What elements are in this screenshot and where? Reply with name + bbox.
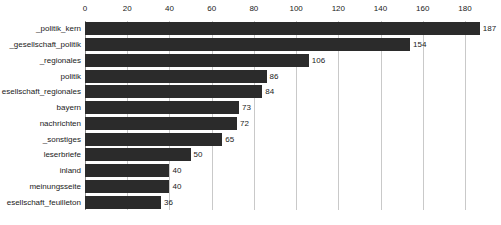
- category-label: _politik_kern: [36, 24, 83, 33]
- bar-row: 187: [85, 21, 501, 37]
- bar-value-label: 154: [413, 40, 426, 49]
- bar-value-label: 40: [172, 166, 181, 175]
- bar: [85, 22, 480, 35]
- x-tick-label: 0: [83, 4, 87, 13]
- x-tick-label: 80: [249, 4, 258, 13]
- bar-row: 154: [85, 37, 501, 53]
- category-label-row: nachrichten: [0, 116, 83, 132]
- bar: [85, 70, 267, 83]
- bar: [85, 101, 239, 114]
- category-label: nachrichten: [40, 119, 83, 128]
- bar-value-label: 65: [225, 135, 234, 144]
- bar-value-label: 86: [270, 72, 279, 81]
- category-label: meinungsseite: [29, 182, 83, 191]
- category-label: leserbriefe: [44, 150, 83, 159]
- category-label-row: _sonstiges: [0, 131, 83, 147]
- x-tick-label: 100: [289, 4, 302, 13]
- bar-value-label: 36: [164, 198, 173, 207]
- category-axis-labels: _politik_kern_gesellschaft_politik_regio…: [0, 21, 83, 210]
- x-tick-label: 180: [458, 4, 471, 13]
- bar-row: 36: [85, 194, 501, 210]
- bar: [85, 148, 191, 161]
- bar: [85, 85, 262, 98]
- category-label: inland: [60, 166, 83, 175]
- bar-value-label: 73: [242, 103, 251, 112]
- x-axis: 020406080100120140160180: [0, 0, 501, 22]
- x-tick-label: 160: [416, 4, 429, 13]
- plot-area: 187154106868473726550404036: [85, 21, 501, 210]
- category-label: _sonstiges: [43, 135, 83, 144]
- bar-row: 65: [85, 131, 501, 147]
- category-label-row: _gesellschaft_politik: [0, 37, 83, 53]
- bar-row: 40: [85, 179, 501, 195]
- bar-chart: 020406080100120140160180 _politik_kern_g…: [0, 0, 501, 225]
- bar-row: 50: [85, 147, 501, 163]
- category-label-row: leserbriefe: [0, 147, 83, 163]
- category-label: _gesellschaft_politik: [9, 40, 83, 49]
- x-tick-label: 40: [165, 4, 174, 13]
- bar-row: 86: [85, 68, 501, 84]
- category-label-row: meinungsseite: [0, 179, 83, 195]
- bars-container: 187154106868473726550404036: [85, 21, 501, 210]
- bar-value-label: 106: [312, 56, 325, 65]
- bar-row: 72: [85, 116, 501, 132]
- bar-value-label: 50: [194, 150, 203, 159]
- category-label-row: esellschaft_regionales: [0, 84, 83, 100]
- category-label: politik: [61, 72, 83, 81]
- bar-row: 40: [85, 163, 501, 179]
- category-label-row: inland: [0, 163, 83, 179]
- bar: [85, 133, 222, 146]
- category-label-row: _regionales: [0, 53, 83, 69]
- bar-row: 84: [85, 84, 501, 100]
- x-tick-label: 20: [123, 4, 132, 13]
- x-tick-label: 120: [332, 4, 345, 13]
- bar-value-label: 72: [240, 119, 249, 128]
- bar-row: 106: [85, 53, 501, 69]
- bar: [85, 164, 169, 177]
- bar-row: 73: [85, 100, 501, 116]
- x-tick-label: 60: [207, 4, 216, 13]
- category-label-row: _politik_kern: [0, 21, 83, 37]
- bar: [85, 117, 237, 130]
- category-label: esellschaft_regionales: [2, 87, 83, 96]
- category-label: esellschaft_feuilleton: [7, 198, 83, 207]
- category-label-row: politik: [0, 68, 83, 84]
- x-tick-label: 140: [374, 4, 387, 13]
- bar: [85, 180, 169, 193]
- category-label-row: bayern: [0, 100, 83, 116]
- bar-value-label: 84: [265, 87, 274, 96]
- bar: [85, 54, 309, 67]
- bar-value-label: 187: [483, 24, 496, 33]
- category-label: bayern: [57, 103, 83, 112]
- category-label-row: esellschaft_feuilleton: [0, 194, 83, 210]
- bar-value-label: 40: [172, 182, 181, 191]
- category-label: _regionales: [40, 56, 83, 65]
- bar: [85, 38, 410, 51]
- bar: [85, 196, 161, 209]
